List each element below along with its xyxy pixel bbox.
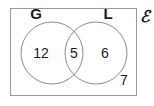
region-count-outside: 7 bbox=[120, 72, 128, 88]
set-label-l: L bbox=[103, 5, 112, 22]
set-label-g: G bbox=[30, 5, 42, 22]
region-count-l-only: 6 bbox=[101, 45, 109, 61]
universal-set-symbol: ℰ bbox=[140, 8, 152, 25]
region-count-g-only: 12 bbox=[33, 45, 49, 61]
region-count-intersection: 5 bbox=[70, 45, 78, 61]
venn-diagram-figure: G L ℰ 12 5 6 7 bbox=[0, 0, 154, 106]
